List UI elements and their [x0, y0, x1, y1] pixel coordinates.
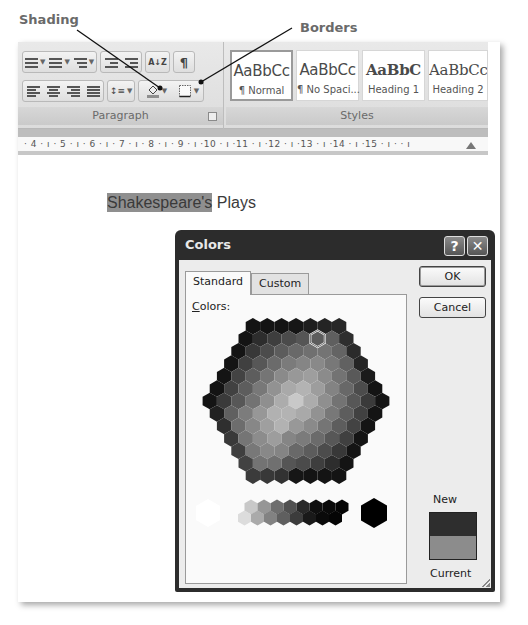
indent-button-group	[100, 51, 142, 73]
ribbon: ▼ ▼ ▼ A↓Z ¶	[18, 42, 488, 129]
shaded-text[interactable]: Shakespeare's	[107, 193, 212, 212]
borders-icon	[178, 84, 192, 98]
style-no-spacing[interactable]: AaBbCc ¶ No Spaci...	[296, 50, 359, 101]
style-sample: AaBbCc	[429, 61, 487, 79]
paragraph-row-1: ▼ ▼ ▼ A↓Z ¶	[22, 51, 195, 73]
style-sample: AaBbCc	[232, 62, 291, 80]
sort-button-group: A↓Z	[145, 51, 170, 73]
sort-button[interactable]: A↓Z	[146, 52, 169, 72]
style-heading-2[interactable]: AaBbCc Heading 2	[428, 50, 488, 101]
tab-custom[interactable]: Custom	[251, 273, 309, 294]
color-preview-swatch	[429, 512, 477, 560]
document-heading[interactable]: Shakespeare's Plays	[107, 194, 256, 212]
decrease-indent-button[interactable]	[101, 52, 121, 72]
shading-borders-button-group: ▼ ▼	[138, 80, 204, 102]
chevron-down-icon[interactable]: ▼	[89, 58, 94, 66]
callout-shading-label: Shading	[19, 12, 79, 27]
shading-button[interactable]: ▼	[139, 81, 173, 101]
style-name: Heading 2	[429, 84, 487, 95]
dialog-tabs: Standard Custom	[185, 271, 309, 295]
dialog-title: Colors	[185, 237, 231, 252]
paragraph-group-label: Paragraph	[18, 107, 223, 125]
cancel-button[interactable]: Cancel	[419, 297, 486, 318]
multilevel-list-button[interactable]: ▼	[72, 52, 96, 72]
justify-icon	[87, 86, 100, 97]
dialog-titlebar[interactable]: Colors ? ✕	[179, 230, 491, 260]
dialog-client-area: Standard Custom Colors: OK Cancel New Cu…	[179, 260, 491, 588]
callout-borders-label: Borders	[300, 20, 358, 35]
align-right-icon	[67, 86, 80, 97]
ruler-shadow	[18, 151, 488, 155]
paragraph-row-2: ↕≡▼ ▼ ▼	[22, 80, 204, 102]
alignment-button-group	[22, 80, 104, 102]
bullets-button[interactable]: ▼	[23, 52, 47, 72]
borders-button[interactable]: ▼	[173, 81, 203, 101]
chevron-down-icon[interactable]: ▼	[64, 58, 69, 66]
align-center-icon	[47, 86, 60, 97]
decrease-indent-icon	[105, 57, 118, 68]
style-name: ¶ Normal	[232, 85, 291, 96]
pilcrow-icon: ¶	[180, 55, 188, 70]
chevron-down-icon[interactable]: ▼	[194, 87, 199, 95]
chevron-down-icon[interactable]: ▼	[127, 87, 132, 95]
line-spacing-icon: ↕≡	[110, 86, 125, 96]
paragraph-dialog-launcher-icon[interactable]	[208, 112, 217, 121]
line-spacing-button[interactable]: ↕≡▼	[108, 81, 134, 101]
justify-button[interactable]	[83, 81, 103, 101]
shading-icon	[146, 84, 160, 98]
numbering-button[interactable]: ▼	[47, 52, 71, 72]
standard-tab-panel: Colors:	[185, 294, 407, 584]
new-color-label: New	[433, 493, 457, 506]
align-center-button[interactable]	[43, 81, 63, 101]
style-name: Heading 1	[363, 84, 424, 95]
increase-indent-icon	[125, 57, 138, 68]
show-formatting-marks-button[interactable]: ¶	[174, 52, 194, 72]
chevron-down-icon[interactable]: ▼	[40, 58, 45, 66]
bullets-icon	[25, 57, 38, 68]
increase-indent-button[interactable]	[121, 52, 141, 72]
align-left-button[interactable]	[23, 81, 43, 101]
close-button[interactable]: ✕	[467, 236, 488, 256]
styles-group: AaBbCc ¶ Normal AaBbCc ¶ No Spaci... AaB…	[226, 42, 488, 129]
colors-dialog: Colors ? ✕ Standard Custom Colors: OK Ca…	[175, 230, 495, 592]
right-indent-marker-icon[interactable]	[466, 142, 476, 149]
numbering-icon	[49, 57, 62, 68]
colors-label: Colors:	[192, 300, 230, 313]
line-spacing-button-group: ↕≡▼	[107, 80, 135, 102]
horizontal-ruler[interactable]: · 4 · ı · 5 · ı · 6 · ı · 7 · ı · 8 · ı …	[18, 137, 488, 151]
chevron-down-icon[interactable]: ▼	[162, 87, 167, 95]
tab-standard[interactable]: Standard	[185, 271, 251, 295]
resize-grip-icon[interactable]	[482, 579, 490, 587]
new-color-swatch	[430, 513, 476, 536]
sort-icon: A↓Z	[148, 58, 167, 67]
current-color-label: Current	[430, 567, 471, 580]
style-sample: AaBbC	[363, 61, 424, 79]
help-button[interactable]: ?	[444, 236, 465, 256]
styles-group-label: Styles	[226, 107, 488, 125]
ok-button[interactable]: OK	[419, 266, 486, 287]
plain-text[interactable]: Plays	[212, 194, 256, 211]
multilevel-list-icon	[74, 57, 87, 68]
ruler-band	[18, 129, 488, 137]
paragraph-group: ▼ ▼ ▼ A↓Z ¶	[18, 42, 224, 129]
list-button-group: ▼ ▼ ▼	[22, 51, 97, 73]
show-marks-button-group: ¶	[173, 51, 195, 73]
current-color-swatch	[430, 536, 476, 559]
style-normal[interactable]: AaBbCc ¶ Normal	[230, 50, 293, 101]
color-honeycomb-picker[interactable]	[186, 317, 406, 487]
style-sample: AaBbCc	[297, 61, 358, 79]
style-name: ¶ No Spaci...	[297, 84, 358, 95]
grayscale-swatches[interactable]	[186, 487, 406, 537]
align-right-button[interactable]	[63, 81, 83, 101]
align-left-icon	[27, 86, 40, 97]
style-heading-1[interactable]: AaBbC Heading 1	[362, 50, 425, 101]
